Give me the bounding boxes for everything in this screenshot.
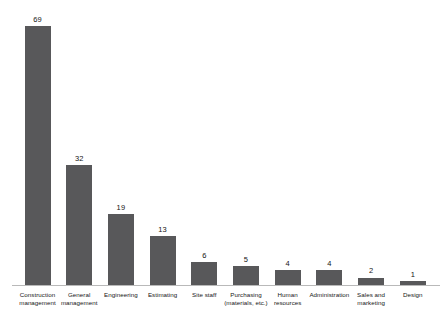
bar-value-label: 4 [310,259,348,268]
bar-column [102,214,140,285]
bar-value-label: 13 [144,225,182,234]
bar [108,214,134,285]
bar-column [310,270,348,285]
bar-column [394,281,432,285]
bar-column [269,270,307,285]
category-label-line: Design [385,291,441,299]
bar [400,281,426,285]
bar-value-label: 69 [19,15,57,24]
bar [275,270,301,285]
category-label-line: resources [260,299,316,307]
bar-value-label: 32 [60,154,98,163]
bar-value-label: 2 [352,266,390,275]
bar [233,266,259,285]
bar-value-label: 4 [269,259,307,268]
bar [25,26,51,285]
bar-column [227,266,265,285]
bar-value-label: 19 [102,203,140,212]
bar [358,278,384,286]
bar [150,236,176,285]
category-label-line: management [51,299,107,307]
bar-chart: 69321913654421 ConstructionmanagementGen… [0,0,448,326]
category-label: Design [385,291,441,299]
bar [191,262,217,285]
bar-value-label: 5 [227,255,265,264]
bar-value-label: 6 [185,251,223,260]
category-label-line: marketing [343,299,399,307]
bar-column [144,236,182,285]
x-axis-baseline [12,285,440,286]
bar-column [185,262,223,285]
bar [316,270,342,285]
bar-column [19,26,57,285]
bar-column [352,278,390,286]
bar-value-label: 1 [394,270,432,279]
bar-column [60,165,98,285]
bar [66,165,92,285]
